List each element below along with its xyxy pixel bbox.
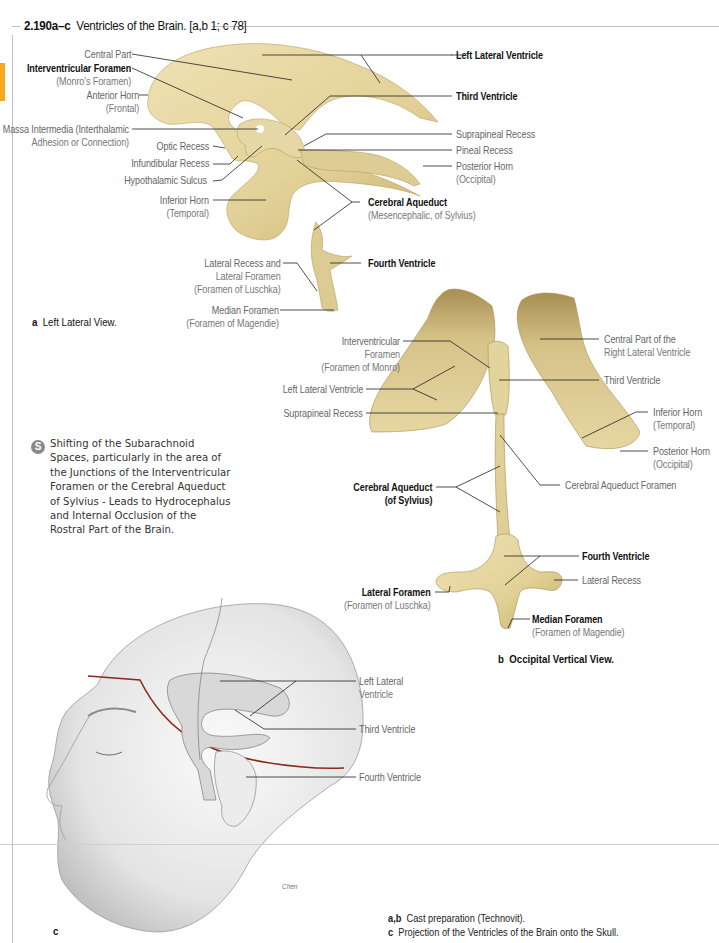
label-pineal-recess: Pineal Recess — [456, 144, 513, 157]
label-b-fourth-ventricle: Fourth Ventricle — [582, 550, 649, 563]
label-fourth-ventricle: Fourth Ventricle — [368, 257, 435, 270]
leader-b-cerebral-aqueduct-2 — [456, 487, 500, 512]
label-c-third-ventricle: Third Ventricle — [359, 723, 415, 736]
divider-line — [0, 844, 719, 845]
label-c-fourth-ventricle: Fourth Ventricle — [359, 771, 421, 784]
panel-c-head — [47, 598, 363, 932]
label-b-posterior-horn: Posterior Horn(Occipital) — [653, 445, 710, 471]
label-b-lateral-foramen: Lateral Foramen(Foramen of Luschka) — [344, 586, 431, 612]
label-interventricular-foramen: Interventricular Foramen(Monro's Foramen… — [27, 62, 131, 88]
aqueduct-fourth-ventricle-shape — [311, 222, 352, 311]
leader-lateral-recess — [283, 263, 317, 291]
label-left-lateral-ventricle: Left Lateral Ventricle — [456, 49, 543, 62]
footer-line-ab: a,b Cast preparation (Technovit). — [388, 912, 525, 924]
label-median-foramen: Median Foramen(Foramen of Magendie) — [186, 304, 279, 330]
atlas-page: 2.190a–c Ventricles of the Brain. [a,b 1… — [0, 0, 719, 943]
aqueduct-b-shape — [495, 414, 510, 540]
label-central-part: Central Part — [84, 48, 131, 61]
leader-optic-recess — [213, 146, 225, 148]
leader-suprapineal-recess — [304, 134, 452, 146]
clinical-note-text: Shifting of the Subarachnoid Spaces, par… — [50, 437, 234, 538]
clinical-note-icon: S — [31, 440, 45, 454]
label-massa-intermedia: Massa Intermedia (InterthalamicAdhesion … — [3, 123, 129, 149]
label-inferior-horn: Inferior Horn(Temporal) — [160, 194, 209, 220]
leader-cerebral-aqueduct-2 — [314, 202, 352, 230]
panel-a-caption: a Left Lateral View. — [32, 316, 117, 328]
label-b-lateral-recess: Lateral Recess — [582, 574, 641, 587]
label-b-central-part-right: Central Part of theRight Lateral Ventric… — [604, 333, 690, 359]
third-ventricle-b-shape — [488, 341, 509, 417]
label-b-cerebral-aqueduct-foramen: Cerebral Aqueduct Foramen — [565, 479, 676, 492]
label-infundibular-recess: Infundibular Recess — [131, 157, 209, 170]
footer-line-c: c Projection of the Ventricles of the Br… — [388, 926, 619, 938]
panel-b-caption: b Occipital Vertical View. — [498, 653, 614, 665]
label-lateral-recess-and-foramen: Lateral Recess andLateral Foramen(Forame… — [194, 257, 281, 296]
artist-signature: Chen — [282, 880, 297, 893]
leader-b-aqueduct-foramen — [500, 435, 560, 485]
right-lateral-ventricle-b-shape — [517, 293, 640, 449]
label-posterior-horn: Posterior Horn(Occipital) — [456, 160, 513, 186]
label-b-left-lateral-ventricle: Left Lateral Ventricle — [283, 383, 363, 396]
label-b-interventricular-foramen: InterventricularForamen(Foramen of Monro… — [321, 335, 400, 374]
label-b-suprapineal-recess: Suprapineal Recess — [284, 407, 363, 420]
label-b-median-foramen: Median Foramen(Foramen of Magendie) — [532, 613, 625, 639]
label-b-inferior-horn: Inferior Horn(Temporal) — [653, 406, 702, 432]
label-anterior-horn: Anterior Horn(Frontal) — [86, 89, 139, 115]
label-b-cerebral-aqueduct: Cerebral Aqueduct(of Sylvius) — [353, 481, 432, 507]
label-b-third-ventricle: Third Ventricle — [604, 374, 660, 387]
label-hypothalamic-sulcus: Hypothalamic Sulcus — [124, 174, 207, 187]
panel-c-letter: c — [53, 925, 58, 937]
label-optic-recess: Optic Recess — [156, 140, 209, 153]
leader-b-cerebral-aqueduct-1 — [436, 466, 500, 487]
label-suprapineal-recess: Suprapineal Recess — [456, 128, 535, 141]
label-third-ventricle: Third Ventricle — [456, 90, 517, 103]
label-c-left-lateral-ventricle: Left LateralVentricle — [359, 675, 403, 701]
label-cerebral-aqueduct: Cerebral Aqueduct(Mesencephalic, of Sylv… — [368, 196, 476, 222]
